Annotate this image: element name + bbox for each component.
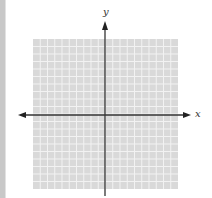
coordinate-plane: [0, 0, 212, 198]
y-axis-up-arrow-icon: [102, 21, 108, 30]
x-axis-left-arrow-icon: [18, 112, 26, 118]
y-axis-label: y: [103, 6, 109, 17]
x-axis-label: x: [195, 108, 201, 119]
x-axis-right-arrow-icon: [183, 112, 191, 118]
